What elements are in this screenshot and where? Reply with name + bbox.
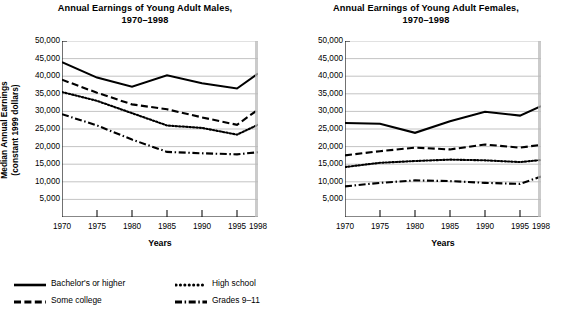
plot-right-edge-shading	[538, 41, 541, 217]
dash-dot-line-icon	[175, 294, 207, 306]
chart-title-males-line1: Annual Earnings of Young Adult Males,	[58, 3, 233, 13]
chart-title-females: Annual Earnings of Young Adult Females, …	[285, 2, 567, 26]
y-tick-label-45000: 45,000	[318, 54, 343, 62]
x-axis-title-males: Years	[62, 238, 258, 248]
series-line-males-3	[62, 114, 258, 154]
x-tick-label-1975: 1975	[88, 222, 106, 231]
y-tick-label-30000: 30,000	[318, 107, 343, 115]
y-tick-label-50000: 50,000	[318, 37, 343, 45]
series-line-females-1	[345, 144, 541, 155]
plot-area-males	[62, 41, 258, 217]
legend-label: Some college	[51, 294, 102, 306]
y-axis-title-line2: (constant 1999 dollars)	[10, 55, 21, 205]
plot-svg-females	[345, 41, 541, 217]
x-tick-label-1998: 1998	[249, 222, 267, 231]
chart-title-males: Annual Earnings of Young Adult Males, 19…	[0, 2, 290, 26]
plot-right-edge-shading	[255, 41, 258, 217]
y-tick-label-25000: 25,000	[35, 125, 60, 133]
y-tick-label-35000: 35,000	[35, 90, 60, 98]
y-tick-label-15000: 15,000	[35, 160, 60, 168]
chart-title-males-line2: 1970–1998	[0, 14, 290, 26]
x-tick-label-1990: 1990	[193, 222, 211, 231]
series-line-females-2	[345, 160, 541, 167]
y-tick-label-5000: 5,000	[40, 195, 61, 203]
y-tick-label-10000: 10,000	[35, 178, 60, 186]
solid-line-icon	[14, 277, 46, 289]
series-line-males-2	[62, 92, 258, 135]
legend-item-solid: Bachelor's or higher	[14, 276, 125, 290]
chart-title-females-line1: Annual Earnings of Young Adult Females,	[333, 3, 519, 13]
y-axis-title-line1: Median Annual Earnings	[0, 55, 10, 205]
legend-label: Bachelor's or higher	[51, 277, 125, 289]
chart-title-females-line2: 1970–1998	[285, 14, 567, 26]
x-tick-label-1990: 1990	[476, 222, 494, 231]
legend-item-dashdot: Grades 9–11	[175, 293, 260, 307]
x-tick-label-1970: 1970	[336, 222, 354, 231]
y-tick-label-25000: 25,000	[318, 125, 343, 133]
x-tick-label-1970: 1970	[53, 222, 71, 231]
y-tick-label-50000: 50,000	[35, 37, 60, 45]
y-tick-label-40000: 40,000	[318, 72, 343, 80]
legend-item-dotted: High school	[175, 276, 256, 290]
y-tick-label-5000: 5,000	[323, 195, 344, 203]
dotted-line-icon	[175, 277, 207, 289]
y-tick-label-45000: 45,000	[35, 54, 60, 62]
y-tick-label-20000: 20,000	[35, 142, 60, 150]
figure-root: Annual Earnings of Young Adult Males, 19…	[0, 0, 567, 309]
plot-svg-males	[62, 41, 258, 217]
x-tick-label-1985: 1985	[158, 222, 176, 231]
x-tick-label-1998: 1998	[532, 222, 550, 231]
dashed-line-icon	[14, 294, 46, 306]
legend-label: High school	[212, 277, 256, 289]
x-tick-label-1995: 1995	[228, 222, 246, 231]
y-axis-title: Median Annual Earnings (constant 1999 do…	[0, 55, 19, 205]
x-axis-tick-labels-males: 1970197519801985199019951998	[62, 222, 258, 234]
x-tick-label-1995: 1995	[511, 222, 529, 231]
x-axis-tick-labels-females: 1970197519801985199019951998	[345, 222, 541, 234]
y-tick-label-40000: 40,000	[35, 72, 60, 80]
y-tick-label-30000: 30,000	[35, 107, 60, 115]
y-tick-label-15000: 15,000	[318, 160, 343, 168]
x-tick-label-1975: 1975	[371, 222, 389, 231]
series-line-males-0	[62, 62, 258, 88]
series-line-females-3	[345, 177, 541, 187]
x-tick-label-1980: 1980	[123, 222, 141, 231]
legend: Bachelor's or higherHigh schoolSome coll…	[14, 276, 314, 308]
y-tick-label-35000: 35,000	[318, 90, 343, 98]
x-axis-title-females: Years	[345, 238, 541, 248]
y-tick-label-10000: 10,000	[318, 178, 343, 186]
legend-label: Grades 9–11	[212, 294, 260, 306]
x-tick-label-1985: 1985	[441, 222, 459, 231]
plot-area-females	[345, 41, 541, 217]
legend-item-dashed: Some college	[14, 293, 102, 307]
x-tick-label-1980: 1980	[406, 222, 424, 231]
y-tick-label-20000: 20,000	[318, 142, 343, 150]
